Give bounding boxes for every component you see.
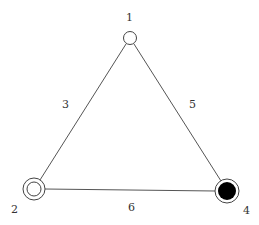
node-label-1: 1	[126, 11, 133, 24]
double-circle-inner-icon	[27, 182, 41, 196]
node-label-4: 4	[243, 204, 250, 217]
node-2	[23, 178, 45, 200]
edge-1-4	[134, 44, 221, 181]
edge-label-3: 3	[62, 98, 69, 111]
edge-label-6: 6	[128, 201, 135, 214]
edge-label-5: 5	[189, 98, 196, 111]
graph-diagram: 1 2 4 3 5 6	[0, 0, 259, 225]
node-4	[215, 179, 239, 203]
edge-1-2	[40, 44, 126, 180]
node-label-2: 2	[11, 203, 18, 216]
open-circle-icon	[124, 32, 137, 45]
edge-2-4	[45, 189, 215, 191]
node-1	[124, 32, 137, 45]
filled-ring-inner-icon	[218, 182, 236, 200]
